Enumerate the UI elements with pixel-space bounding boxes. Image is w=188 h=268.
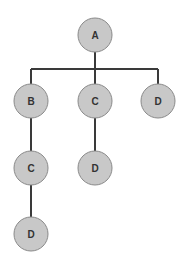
- tree-node-d: D: [78, 151, 112, 185]
- node-label: B: [27, 96, 34, 107]
- node-label: A: [91, 30, 98, 41]
- node-label: C: [27, 163, 34, 174]
- tree-node-c: C: [14, 151, 48, 185]
- tree-node-b: B: [14, 84, 48, 118]
- tree-diagram: ABCDCDD: [0, 0, 188, 268]
- tree-node-d: D: [141, 84, 175, 118]
- edge-a-branch: [31, 52, 158, 84]
- tree-node-d: D: [14, 217, 48, 251]
- node-label: C: [91, 96, 98, 107]
- node-label: D: [91, 163, 98, 174]
- tree-node-c: C: [78, 84, 112, 118]
- node-label: D: [154, 96, 161, 107]
- node-label: D: [27, 229, 34, 240]
- edges: [31, 52, 158, 217]
- tree-node-a: A: [78, 18, 112, 52]
